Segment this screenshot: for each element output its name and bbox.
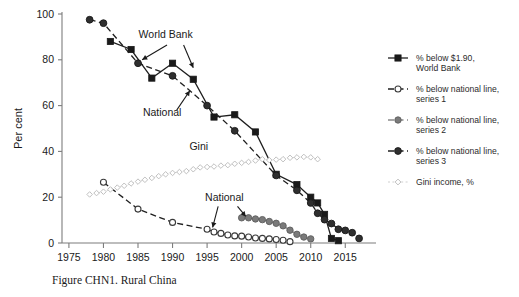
data-point-marker <box>301 234 307 240</box>
data-point-marker <box>335 238 341 244</box>
data-point-marker <box>239 233 245 239</box>
data-point-marker <box>107 38 113 44</box>
data-point-marker <box>87 192 93 198</box>
data-point-marker <box>169 72 176 79</box>
legend-label-line2: World Bank <box>416 63 461 73</box>
data-point-marker <box>135 206 141 212</box>
y-tick-label: 80 <box>42 53 54 65</box>
data-point-marker <box>115 185 121 191</box>
data-point-marker <box>328 235 334 241</box>
x-tick-label: 2015 <box>334 251 358 263</box>
series-gini <box>87 154 321 197</box>
figure-container: 0204060801001975198019851990199520002005… <box>0 0 519 297</box>
data-point-marker <box>335 226 342 233</box>
data-point-marker <box>287 227 293 233</box>
data-point-marker <box>252 129 258 135</box>
data-point-marker <box>232 233 238 239</box>
data-point-marker <box>204 102 211 109</box>
data-point-marker <box>287 239 293 245</box>
y-tick-label: 20 <box>42 191 54 203</box>
y-tick-label: 60 <box>42 99 54 111</box>
data-point-marker <box>246 234 252 240</box>
data-point-marker <box>260 156 266 162</box>
y-tick-label: 0 <box>48 237 54 249</box>
data-point-marker <box>301 154 307 160</box>
data-point-marker <box>128 181 134 187</box>
y-tick-label: 40 <box>42 145 54 157</box>
data-point-marker <box>128 46 134 52</box>
data-point-marker <box>273 157 279 163</box>
data-point-marker <box>395 55 401 61</box>
data-point-marker <box>252 216 258 222</box>
data-point-marker <box>100 20 107 27</box>
x-tick-label: 1975 <box>57 251 81 263</box>
data-point-marker <box>211 164 217 170</box>
annotation-national-upper: National <box>143 91 190 118</box>
data-point-marker <box>121 183 127 189</box>
data-point-marker <box>177 169 183 175</box>
data-point-marker <box>245 215 251 221</box>
data-point-marker <box>246 159 252 165</box>
data-point-marker <box>287 155 293 161</box>
data-point-marker <box>321 216 328 223</box>
legend-item-3[interactable]: % below national line,series 3 <box>388 146 499 166</box>
legend-item-2[interactable]: % below national line,series 2 <box>388 115 499 135</box>
data-point-marker <box>232 112 238 118</box>
data-point-marker <box>273 237 279 243</box>
data-point-marker <box>395 179 401 185</box>
data-point-marker <box>328 220 335 227</box>
data-point-marker <box>273 172 280 179</box>
data-point-marker <box>204 226 210 232</box>
series-national_1 <box>100 179 293 244</box>
data-point-marker <box>314 210 321 217</box>
x-tick-label: 1980 <box>92 251 116 263</box>
data-point-marker <box>100 179 106 185</box>
legend-label-line2: series 2 <box>416 125 446 135</box>
legend-label: % below national line, <box>416 146 499 156</box>
data-point-marker <box>184 168 190 174</box>
data-point-marker <box>273 220 279 226</box>
data-point-marker <box>266 218 272 224</box>
legend-item-0[interactable]: % below $1.90,World Bank <box>388 53 475 73</box>
data-point-marker <box>315 200 321 206</box>
annotation-label: World Bank <box>139 28 194 40</box>
data-point-marker <box>218 230 224 236</box>
x-tick-label: 1985 <box>126 251 150 263</box>
data-point-marker <box>225 162 231 168</box>
series-line <box>103 182 290 241</box>
data-point-marker <box>280 223 286 229</box>
data-point-marker <box>156 173 162 179</box>
data-point-marker <box>294 231 300 237</box>
data-point-marker <box>239 160 245 166</box>
data-point-marker <box>163 172 169 178</box>
data-point-marker <box>232 161 238 167</box>
caption-layer: Figure CHN1. Rural China <box>52 274 177 287</box>
annotation-label: Gini <box>189 140 208 152</box>
legend-label-line2: series 3 <box>416 156 446 166</box>
data-point-marker <box>94 190 100 196</box>
data-point-marker <box>169 60 175 66</box>
data-point-marker <box>101 189 107 195</box>
data-point-marker <box>149 175 155 181</box>
data-point-marker <box>170 219 176 225</box>
data-point-marker <box>280 156 286 162</box>
figure-caption: Figure CHN1. Rural China <box>52 274 177 287</box>
legend-label: % below national line, <box>416 84 499 94</box>
data-point-marker <box>170 170 176 176</box>
legend-item-1[interactable]: % below national line,series 1 <box>388 84 499 104</box>
series-line <box>110 41 338 240</box>
data-point-marker <box>349 229 356 236</box>
axes-layer: 0204060801001975198019851990199520002005… <box>12 8 376 263</box>
data-point-marker <box>308 236 314 242</box>
x-tick-label: 1990 <box>161 251 185 263</box>
annotation-arrowhead <box>211 222 216 227</box>
data-point-marker <box>395 148 402 155</box>
data-point-marker <box>142 177 148 183</box>
data-point-marker <box>211 229 217 235</box>
x-tick-label: 2005 <box>265 251 289 263</box>
data-point-marker <box>204 164 210 170</box>
data-point-marker <box>197 165 203 171</box>
legend-item-4[interactable]: Gini income, % <box>388 177 474 187</box>
legend-layer: % below $1.90,World Bank% below national… <box>388 53 499 187</box>
y-axis-title: Per cent <box>12 108 24 149</box>
